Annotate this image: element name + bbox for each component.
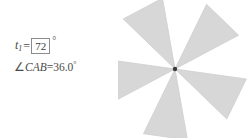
slider-variable-subscript: 1 <box>18 44 22 53</box>
slider-value-input[interactable]: 72 <box>31 38 50 54</box>
geometry-applet: t1 = 72 ° ∠CAB=36.0° <box>0 0 248 138</box>
pinwheel-figure <box>118 0 248 138</box>
slider-value-row: t1 = 72 ° <box>15 36 56 56</box>
slider-variable-label: t1 <box>15 39 22 53</box>
angle-points-label: CAB <box>25 61 47 73</box>
center-point[interactable] <box>173 67 177 71</box>
blade-2[interactable] <box>175 4 239 69</box>
blade-3[interactable] <box>175 69 246 119</box>
pinwheel-blades <box>118 0 246 138</box>
graphics-view[interactable] <box>118 0 248 138</box>
slider-equals-sign: = <box>23 39 30 54</box>
slider-degree-symbol: ° <box>52 35 56 46</box>
angle-symbol-icon: ∠ <box>14 61 25 73</box>
angle-degree-symbol: ° <box>73 60 76 69</box>
blade-1[interactable] <box>123 0 175 69</box>
algebra-panel: t1 = 72 ° ∠CAB=36.0° <box>0 0 120 138</box>
angle-measurement-label: ∠CAB=36.0° <box>14 61 77 73</box>
angle-value: 36.0 <box>53 61 73 73</box>
